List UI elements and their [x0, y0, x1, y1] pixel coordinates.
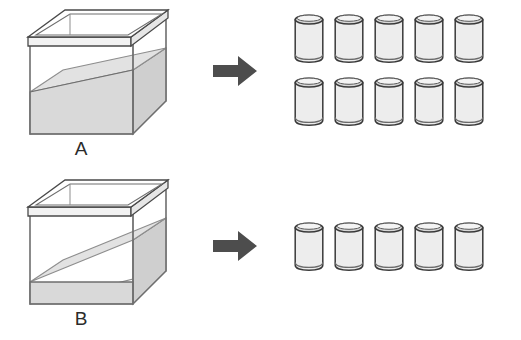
can-icon [335, 78, 363, 125]
can-icon [375, 78, 403, 125]
tank-a-rim-front [28, 37, 131, 46]
can-icon [295, 15, 323, 62]
can-icon [415, 15, 443, 62]
transform-arrow-a [213, 56, 257, 86]
can-icon [335, 223, 363, 270]
cans-group-b [295, 223, 483, 270]
can-icon [295, 78, 323, 125]
can-icon [375, 15, 403, 62]
can-icon [415, 223, 443, 270]
water-tank-b [28, 180, 168, 304]
water-tank-a [28, 10, 168, 134]
cans-group-a [295, 15, 483, 125]
can-icon [455, 223, 483, 270]
row-b: B [28, 180, 483, 329]
tank-label-a: A [75, 138, 88, 159]
tank-b-rim-front [28, 207, 131, 216]
diagram-root: A [0, 0, 521, 340]
can-icon [295, 223, 323, 270]
can-icon [335, 15, 363, 62]
tank-label-b: B [75, 308, 88, 329]
can-icon [375, 223, 403, 270]
row-a: A [28, 10, 483, 159]
tank-b-water-front-face [30, 282, 133, 304]
can-icon [455, 15, 483, 62]
can-icon [455, 78, 483, 125]
diagram-canvas: A [0, 0, 521, 340]
transform-arrow-b [213, 231, 257, 261]
can-icon [415, 78, 443, 125]
